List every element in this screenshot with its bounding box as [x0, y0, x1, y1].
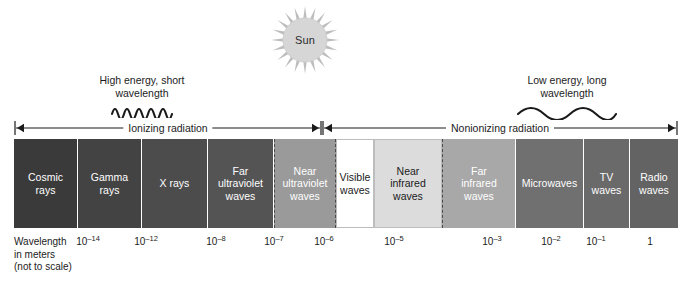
radiation-arrows: Ionizing radiation Nonionizing radiation [0, 118, 692, 138]
band-far-infrared: Far infrared waves [442, 139, 516, 228]
wavelength-tick: 10–8 [206, 236, 225, 248]
short-wavelength-squiggle-icon [110, 102, 174, 118]
band-label: Far infrared waves [461, 165, 497, 203]
wavelength-caption: Wavelength in meters (not to scale) [14, 236, 80, 274]
band-label: Gamma rays [91, 171, 128, 196]
wavelength-tick: 10–3 [482, 236, 501, 248]
band-near-ultraviolet: Near ultraviolet waves [274, 139, 336, 228]
sun-label: Sun [255, 2, 355, 78]
band-microwaves: Microwaves [516, 139, 584, 228]
band-label: Microwaves [522, 177, 577, 190]
wavelength-tick: 10–1 [586, 236, 605, 248]
band-gamma-rays: Gamma rays [78, 139, 142, 228]
wavelength-tick: 10–14 [76, 236, 100, 248]
band-label: X rays [160, 177, 190, 190]
wavelength-tick: 10–7 [264, 236, 283, 248]
spectrum-bar: Cosmic raysGamma raysX raysFar ultraviol… [14, 139, 678, 228]
band-label: Near ultraviolet waves [283, 165, 328, 203]
band-x-rays: X rays [142, 139, 208, 228]
band-label: Near infrared waves [390, 165, 426, 203]
band-near-infrared: Near infrared waves [374, 139, 442, 228]
band-label: Far ultraviolet waves [218, 165, 263, 203]
high-energy-caption: High energy, short wavelength [62, 74, 222, 99]
band-cosmic-rays: Cosmic rays [14, 139, 78, 228]
band-far-ultraviolet: Far ultraviolet waves [208, 139, 274, 228]
band-radio-waves: Radio waves [630, 139, 678, 228]
sun-graphic: Sun [255, 2, 355, 78]
wavelength-tick: 10–12 [134, 236, 158, 248]
band-label: Radio waves [639, 171, 669, 196]
spectrum-diagram: Sun High energy, short wavelength Low en… [0, 0, 692, 281]
nonionizing-label: Nonionizing radiation [446, 120, 554, 136]
low-energy-annotation: Low energy, long wavelength [482, 74, 652, 120]
band-label: Cosmic rays [28, 171, 63, 196]
band-label: TV waves [592, 171, 622, 196]
wavelength-tick: 1 [647, 236, 653, 248]
band-visible-waves: Visible waves [336, 139, 374, 228]
high-energy-annotation: High energy, short wavelength [62, 74, 222, 118]
wavelength-tick: 10–6 [314, 236, 333, 248]
wavelength-tick: 10–2 [541, 236, 560, 248]
ionizing-label: Ionizing radiation [123, 120, 212, 136]
band-tv-waves: TV waves [584, 139, 630, 228]
band-label: Visible waves [340, 171, 371, 196]
wavelength-tick: 10–5 [384, 236, 403, 248]
low-energy-caption: Low energy, long wavelength [482, 74, 652, 99]
